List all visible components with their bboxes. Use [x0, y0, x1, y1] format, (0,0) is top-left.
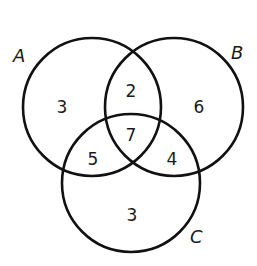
- region-a-b-c: 7: [126, 125, 137, 145]
- region-a-only: 3: [57, 97, 68, 117]
- region-a-c: 5: [88, 149, 99, 169]
- region-a-b: 2: [126, 81, 137, 101]
- set-label-a: A: [12, 45, 25, 66]
- region-b-c: 4: [167, 149, 178, 169]
- region-b-only: 6: [194, 97, 205, 117]
- region-c-only: 3: [127, 205, 138, 225]
- set-label-b: B: [231, 42, 243, 63]
- set-label-c: C: [190, 226, 203, 247]
- venn-diagram: A B C 3 6 3 2 5 4 7: [0, 0, 257, 266]
